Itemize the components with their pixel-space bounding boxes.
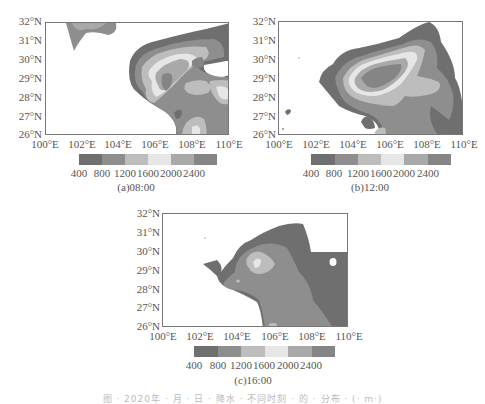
contour-plot-a bbox=[46, 23, 229, 135]
lon-label: 104°E bbox=[339, 138, 367, 150]
colorbar-label: 400 bbox=[303, 167, 320, 179]
lat-label: 27°N bbox=[236, 111, 276, 122]
lon-label: 102°E bbox=[68, 138, 96, 150]
colorbar-label: 2400 bbox=[183, 167, 205, 179]
lat-label: 28°N bbox=[2, 92, 42, 103]
colorbar-label: 1200 bbox=[347, 167, 369, 179]
lat-label: 29°N bbox=[236, 73, 276, 84]
lon-label: 110°E bbox=[335, 330, 362, 342]
colorbar-swatch bbox=[381, 154, 404, 165]
figure-caption: 图 · 2020年 · 月 · 日 · 降水 · 不同时刻 · 的 · 分布 ·… bbox=[0, 392, 485, 404]
lon-label: 108°E bbox=[178, 138, 206, 150]
colorbar-swatch bbox=[171, 154, 194, 165]
lat-label: 28°N bbox=[236, 92, 276, 103]
lon-label: 100°E bbox=[265, 138, 293, 150]
map-frame-b bbox=[278, 21, 463, 135]
lat-label: 27°N bbox=[120, 302, 160, 313]
lat-label: 32°N bbox=[236, 16, 276, 27]
contour-plot-b bbox=[279, 22, 463, 135]
colorbar-swatch bbox=[428, 154, 451, 165]
colorbar-label: 2000 bbox=[393, 167, 415, 179]
colorbar-swatch bbox=[218, 346, 241, 357]
colorbar-label: 1600 bbox=[253, 359, 275, 371]
colorbar-label: 1600 bbox=[137, 167, 159, 179]
panel-title: (a)08:00 bbox=[117, 181, 154, 193]
lat-label: 30°N bbox=[236, 54, 276, 65]
colorbar-swatch bbox=[265, 346, 288, 357]
colorbar-swatch bbox=[79, 154, 102, 165]
lat-label: 32°N bbox=[120, 208, 160, 219]
colorbar-swatch bbox=[358, 154, 381, 165]
panel-title: (b)12:00 bbox=[351, 181, 389, 193]
lat-label: 32°N bbox=[2, 16, 42, 27]
lat-label: 31°N bbox=[236, 35, 276, 46]
panel-title: (c)16:00 bbox=[234, 374, 271, 386]
colorbar-label: 800 bbox=[210, 359, 227, 371]
map-frame-a bbox=[45, 22, 229, 135]
colorbar-label: 1600 bbox=[370, 167, 392, 179]
lat-label: 31°N bbox=[120, 227, 160, 238]
lon-label: 102°E bbox=[302, 138, 330, 150]
lon-label: 102°E bbox=[186, 330, 214, 342]
colorbar-label: 1200 bbox=[114, 167, 136, 179]
lon-label: 104°E bbox=[223, 330, 251, 342]
lat-label: 29°N bbox=[120, 265, 160, 276]
colorbar-swatch bbox=[102, 154, 125, 165]
lon-label: 100°E bbox=[31, 138, 59, 150]
map-frame-c bbox=[162, 213, 348, 327]
lon-label: 106°E bbox=[141, 138, 169, 150]
colorbar-swatch bbox=[312, 346, 335, 357]
colorbar-swatch bbox=[288, 154, 311, 165]
colorbar-swatch bbox=[335, 154, 358, 165]
colorbar-label: 2000 bbox=[160, 167, 182, 179]
colorbar-label: 2000 bbox=[277, 359, 299, 371]
colorbar-label: 400 bbox=[186, 359, 203, 371]
lat-label: 31°N bbox=[2, 35, 42, 46]
colorbar-label: 400 bbox=[71, 167, 88, 179]
colorbar-swatch bbox=[194, 346, 217, 357]
lat-label: 30°N bbox=[2, 54, 42, 65]
lon-label: 104°E bbox=[104, 138, 132, 150]
colorbar-label: 1200 bbox=[230, 359, 252, 371]
colorbar-swatch bbox=[194, 154, 217, 165]
lon-label: 108°E bbox=[298, 330, 326, 342]
colorbar-swatch bbox=[241, 346, 264, 357]
colorbar-label: 2400 bbox=[417, 167, 439, 179]
contour-plot-c bbox=[163, 214, 348, 327]
lat-label: 29°N bbox=[2, 73, 42, 84]
colorbar-a bbox=[56, 154, 217, 165]
lon-label: 106°E bbox=[261, 330, 289, 342]
colorbar-b bbox=[288, 154, 451, 165]
lat-label: 27°N bbox=[2, 111, 42, 122]
colorbar-swatch bbox=[288, 346, 311, 357]
colorbar-label: 800 bbox=[94, 167, 111, 179]
colorbar-swatch bbox=[311, 154, 334, 165]
colorbar-label: 2400 bbox=[300, 359, 322, 371]
lat-label: 28°N bbox=[120, 284, 160, 295]
lon-label: 106°E bbox=[376, 138, 404, 150]
colorbar-swatch bbox=[125, 154, 148, 165]
lon-label: 108°E bbox=[413, 138, 441, 150]
colorbar-swatch bbox=[56, 154, 79, 165]
colorbar-swatch bbox=[148, 154, 171, 165]
lon-label: 110°E bbox=[450, 138, 477, 150]
colorbar-label: 800 bbox=[326, 167, 343, 179]
colorbar-c bbox=[171, 346, 335, 357]
lon-label: 100°E bbox=[149, 330, 177, 342]
colorbar-swatch bbox=[171, 346, 194, 357]
lat-label: 30°N bbox=[120, 246, 160, 257]
colorbar-swatch bbox=[404, 154, 427, 165]
